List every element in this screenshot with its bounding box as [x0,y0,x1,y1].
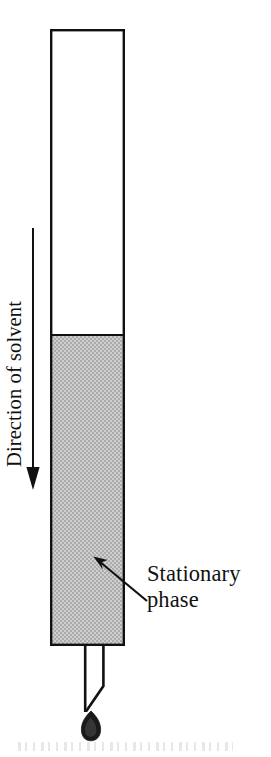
diagram-canvas [0,0,271,757]
stationary-phase-label-line2: phase [147,589,240,612]
chromatography-diagram: Direction of solvent Stationary phase [0,0,271,757]
outlet-stem-right-wall [86,645,103,712]
scan-artifact-band [18,742,233,751]
solvent-flow-arrowhead [26,467,39,490]
solvent-direction-label: Direction of solvent [4,255,34,467]
stationary-phase-packing [52,335,123,644]
stationary-phase-label: Stationary phase [147,563,240,612]
stationary-phase-label-line1: Stationary [147,561,240,586]
